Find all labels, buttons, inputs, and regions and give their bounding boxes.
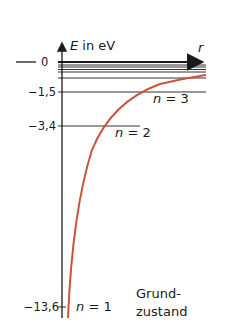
ground-state-label-line1: Grund- xyxy=(136,286,181,301)
tick-minus-1-5: −1,5 xyxy=(28,85,56,99)
y-axis-label: E in eV xyxy=(70,38,115,53)
potential-curve xyxy=(68,75,206,318)
x-axis-label: r xyxy=(198,40,205,55)
tick-0: 0 xyxy=(41,55,48,69)
label-n1: n = 1 xyxy=(76,299,112,314)
ground-state-label-line2: zustand xyxy=(136,304,187,319)
energy-level-diagram: E in eV r 0 −1,5 −3,4 −13,6 n = 3 n = 2 … xyxy=(0,0,226,328)
tick-minus-13-6: −13,6 xyxy=(24,300,59,314)
tick-minus-3-4: −3,4 xyxy=(28,119,56,133)
label-n2: n = 2 xyxy=(115,125,151,140)
label-n3: n = 3 xyxy=(153,91,189,106)
